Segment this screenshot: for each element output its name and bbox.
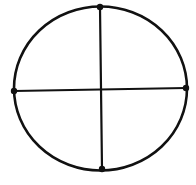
right-point-dot xyxy=(183,85,189,91)
diagram-canvas xyxy=(0,0,196,185)
vertical-diameter-line xyxy=(100,7,102,169)
top-point-dot xyxy=(97,4,103,10)
horizontal-diameter-line xyxy=(14,88,186,91)
left-point-dot xyxy=(11,88,17,94)
circle-quadrant-diagram xyxy=(0,0,196,185)
bottom-point-dot xyxy=(99,166,105,172)
